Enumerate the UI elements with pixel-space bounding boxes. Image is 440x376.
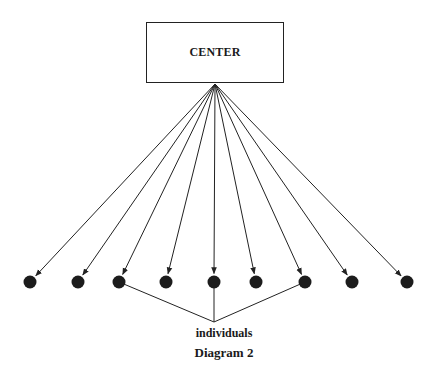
individual-5-node <box>208 276 221 289</box>
individual-9-node <box>401 276 414 289</box>
individual-4-node <box>160 276 173 289</box>
individual-1-node <box>24 276 37 289</box>
center-box: CENTER <box>146 22 284 83</box>
arrow-to-individual-7 <box>215 84 302 274</box>
group-line-individual-7 <box>214 282 305 322</box>
arrow-to-individual-4 <box>168 84 215 274</box>
diagram-title: Diagram 2 <box>4 345 440 361</box>
arrow-to-individual-1 <box>36 84 215 276</box>
individual-8-node <box>346 276 359 289</box>
arrow-to-individual-3 <box>123 84 215 274</box>
individual-7-node <box>299 276 312 289</box>
individual-3-node <box>113 276 126 289</box>
diagram-canvas: CENTER individuals Diagram 2 <box>0 0 440 376</box>
center-label: CENTER <box>189 45 240 60</box>
arrow-to-individual-9 <box>215 84 401 276</box>
arrow-to-individual-2 <box>83 84 215 275</box>
arrow-to-individual-5 <box>214 84 215 274</box>
individual-nodes <box>24 276 414 289</box>
individuals-label: individuals <box>4 326 440 341</box>
individual-2-node <box>72 276 85 289</box>
individual-6-node <box>250 276 263 289</box>
center-to-individual-arrows <box>36 84 401 276</box>
